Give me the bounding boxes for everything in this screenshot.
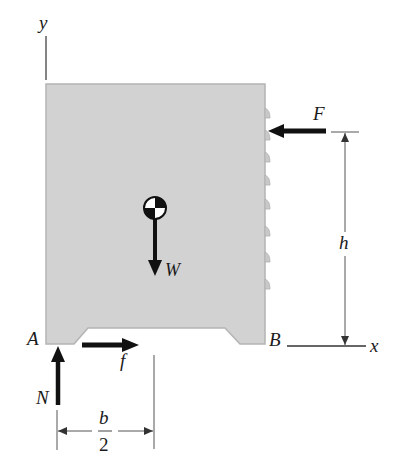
free-body-diagram: y W [0,0,407,476]
half-width-denominator: 2 [99,434,109,455]
center-of-gravity-icon [144,197,166,219]
height-label: h [339,232,349,253]
friction-force-f: f [82,338,139,371]
x-axis-label: x [369,335,379,356]
point-B-label: B [269,329,281,350]
y-axis-label: y [37,12,48,33]
x-axis: x [287,335,379,356]
half-width-numerator: b [99,407,109,428]
force-F-label: F [312,103,325,124]
normal-force-label: N [35,387,50,408]
weight-label: W [165,260,182,280]
applied-force-F: F [268,103,326,138]
point-A-label: A [25,328,39,349]
friction-force-label: f [120,350,128,371]
half-width-dimension: b 2 [57,355,154,455]
normal-force-N: N [35,346,65,408]
y-axis: y [37,12,48,80]
height-dimension: h [331,132,359,345]
